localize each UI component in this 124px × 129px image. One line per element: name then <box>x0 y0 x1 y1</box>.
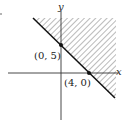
stray-dot <box>0 13 2 15</box>
point-label-4-0: (4, 0) <box>64 78 91 88</box>
point-0-5 <box>59 43 63 47</box>
graph-figure: y x (0, 5) (4, 0) <box>0 0 124 129</box>
graph-canvas <box>0 0 124 129</box>
point-4-0 <box>87 71 91 75</box>
y-axis-label: y <box>58 2 64 12</box>
x-axis-label: x <box>116 67 122 77</box>
point-label-0-5: (0, 5) <box>34 51 61 61</box>
